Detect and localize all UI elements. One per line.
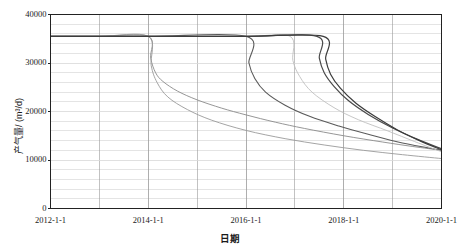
y-axis-title: 产气量/ (m³/d) (12, 98, 25, 154)
gas-production-chart: 010000200003000040000 2012-1-12014-1-120… (0, 0, 460, 249)
x-tick-label: 2014-1-1 (108, 215, 188, 225)
plot-area (0, 0, 460, 249)
y-tick-label: 30000 (25, 57, 46, 67)
y-tick-label: 40000 (25, 9, 46, 19)
x-tick-label: 2020-1-1 (402, 215, 460, 225)
x-tick-label: 2018-1-1 (304, 215, 384, 225)
y-tick-label: 10000 (25, 154, 46, 164)
y-tick-label: 20000 (25, 106, 46, 116)
x-tick-label: 2016-1-1 (206, 215, 286, 225)
x-tick-label: 2012-1-1 (11, 215, 91, 225)
x-axis-title: 日期 (0, 231, 460, 245)
y-tick-label: 0 (42, 203, 46, 213)
